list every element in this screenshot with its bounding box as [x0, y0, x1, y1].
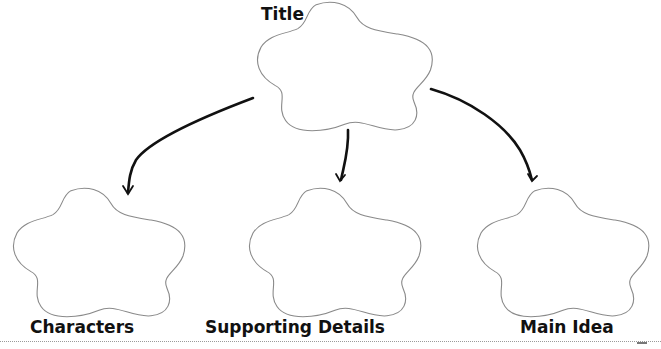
node-characters-shape [13, 188, 184, 316]
node-supporting-details-label: Supporting Details [205, 317, 385, 337]
node-supporting-details-shape [249, 188, 420, 316]
corner-mark [637, 342, 647, 344]
arrow-to-supporting-details [336, 130, 348, 181]
arrow-to-main-idea [431, 89, 537, 181]
arrow-to-characters [123, 98, 253, 194]
diagram-canvas [0, 0, 661, 349]
node-characters-label: Characters [30, 317, 134, 337]
node-main-idea-label: Main Idea [520, 317, 614, 337]
node-title-label: Title [261, 4, 304, 24]
node-main-idea-shape [477, 188, 648, 316]
dotted-divider [0, 341, 661, 342]
